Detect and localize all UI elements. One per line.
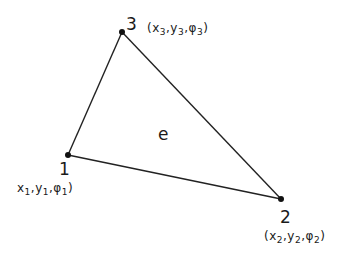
node-3-dot [119,29,125,35]
node-2-dot [278,196,284,202]
edge-1-2 [68,155,281,199]
triangle-element [0,0,353,268]
node-1-dot [65,152,71,158]
node-3-number: 3 [126,16,137,33]
node-1-number: 1 [59,161,70,178]
element-label: e [158,126,168,143]
edge-3-1 [68,32,122,155]
node-1-coordinates: x1,y1,φ1) [17,182,73,194]
finite-element-diagram: 3 (x3,y3,φ3) 1 x1,y1,φ1) 2 (x2,y2,φ2) e [0,0,353,268]
edge-2-3 [122,32,281,199]
node-2-number: 2 [280,209,291,226]
node-2-coordinates: (x2,y2,φ2) [264,230,325,242]
node-3-coordinates: (x3,y3,φ3) [147,22,208,34]
